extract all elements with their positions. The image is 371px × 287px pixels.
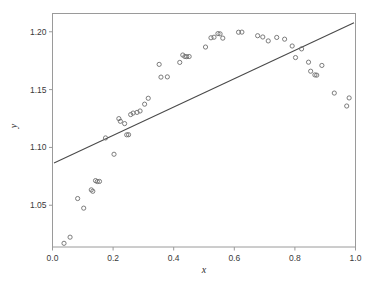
scatter-plot-figure: 1.051.101.151.20 0.00.20.40.60.81.0 x y bbox=[0, 0, 371, 287]
figure-background bbox=[0, 0, 371, 287]
x-tick-label: 0.0 bbox=[47, 253, 59, 263]
y-tick-label: 1.05 bbox=[30, 200, 47, 210]
x-axis-title: x bbox=[201, 264, 207, 275]
x-tick-label: 0.4 bbox=[168, 253, 180, 263]
x-tick-label: 0.2 bbox=[107, 253, 119, 263]
y-axis-title: y bbox=[8, 123, 19, 129]
y-tick-label: 1.10 bbox=[30, 142, 47, 152]
x-tick-label: 0.8 bbox=[289, 253, 301, 263]
y-tick-label: 1.20 bbox=[30, 27, 47, 37]
chart-container: 1.051.101.151.20 0.00.20.40.60.81.0 x y bbox=[0, 0, 371, 287]
y-tick-label: 1.15 bbox=[30, 85, 47, 95]
x-tick-label: 1.0 bbox=[350, 253, 362, 263]
x-tick-label: 0.6 bbox=[228, 253, 240, 263]
